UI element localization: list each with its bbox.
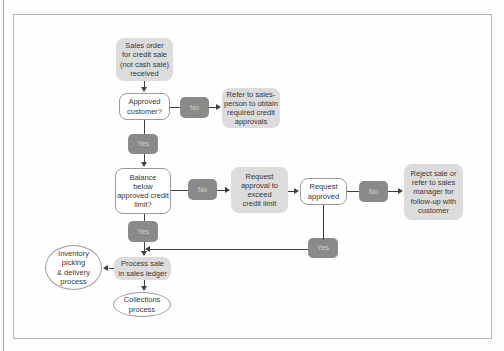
terminal-inventory-picking: Inventory picking & delivery process <box>45 245 102 290</box>
terminal-collections: Collections process <box>113 292 171 317</box>
page-edge-line <box>3 0 4 351</box>
edge-balance-to-no2 <box>171 190 188 191</box>
edge-balance-to-yes3 <box>144 214 145 221</box>
node-reject-sale: Reject sale or refer to sales manager fo… <box>404 164 463 220</box>
label-yes-1: Yes <box>128 134 158 154</box>
arrowhead-yes3-to-process-sale <box>141 251 147 256</box>
edge-process-sale-to-inventory <box>109 268 114 269</box>
decision-approved-customer: Approved customer? <box>119 93 170 120</box>
node-refer-salesperson: Refer to sales- person to obtain require… <box>222 88 280 128</box>
arrowhead-no3-to-reject <box>398 188 403 194</box>
node-request-approval: Request approval to exceed credit limit <box>231 167 288 213</box>
arrowhead-no1-to-refer <box>216 104 221 110</box>
arrowhead-request-approval-to-request-approved <box>294 188 299 194</box>
edge-yes2-to-merge <box>150 249 308 250</box>
label-no-2: No <box>188 179 217 200</box>
arrowhead-no2-to-request-approval <box>225 187 230 193</box>
label-yes-3: Yes <box>128 221 158 242</box>
arrowhead-yes1-to-balance <box>141 162 147 167</box>
decision-balance-below-limit: Balance below approved credit limit? <box>115 168 171 214</box>
arrowhead-process-sale-to-collections <box>141 286 147 291</box>
flowchart-page: Sales order for credit sale (not cash sa… <box>0 0 504 351</box>
edge-approved-to-no1 <box>170 107 180 108</box>
edge-request-approved-to-yes2 <box>323 205 324 240</box>
decision-request-approved: Request approved <box>300 178 347 205</box>
arrowhead-process-sale-to-inventory <box>103 265 108 271</box>
label-no-1: No <box>180 97 209 118</box>
label-yes-2: Yes <box>308 238 338 258</box>
label-no-3: No <box>359 181 388 202</box>
node-sales-order: Sales order for credit sale (not cash sa… <box>116 38 173 81</box>
edge-request-approved-to-no3 <box>347 191 359 192</box>
edge-approved-to-yes1 <box>144 120 145 134</box>
node-process-sale: Process sale in sales ledger <box>114 257 171 280</box>
arrowhead-sales-to-approved <box>141 87 147 92</box>
